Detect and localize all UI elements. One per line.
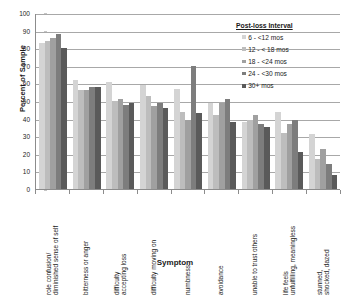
bar xyxy=(298,152,304,189)
x-cat-slot: avoidance xyxy=(204,195,238,295)
x-tick-mark xyxy=(340,190,341,194)
legend-swatch xyxy=(242,60,246,64)
bar xyxy=(264,127,270,189)
legend-label: 30+ mos xyxy=(248,82,273,89)
legend-swatch xyxy=(242,47,246,51)
legend-item: 12 - < 18 mos xyxy=(242,46,346,53)
legend-swatch xyxy=(242,84,246,88)
y-tick-label: 70 xyxy=(23,64,30,71)
x-tick-mark xyxy=(103,190,104,194)
x-axis-category-labels: role confusion/diminished sense of selfb… xyxy=(35,195,340,295)
x-cat-slot: bitterness or anger xyxy=(69,195,103,295)
legend-label: 18 - <24 mos xyxy=(248,58,287,65)
y-tick-label: 50 xyxy=(23,99,30,106)
x-cat-slot: life feelsunfulfilling, meaningless xyxy=(272,195,306,295)
bar xyxy=(196,113,202,189)
y-tick-label: 100 xyxy=(19,11,30,18)
legend: Post-loss Interval 6 - <12 mos12 - < 18 … xyxy=(228,22,346,94)
legend-item: 24 - <30 mos xyxy=(242,70,346,77)
y-tick-label: 40 xyxy=(23,116,30,123)
x-tick-mark xyxy=(204,190,205,194)
bar-chart: Percent of Sample 1009080706050403020100… xyxy=(0,0,350,302)
legend-item: 30+ mos xyxy=(242,82,346,89)
legend-label: 6 - <12 mos xyxy=(248,34,283,41)
x-cat-label: life feelsunfulfilling, meaningless xyxy=(282,195,297,295)
y-tick-label: 60 xyxy=(23,81,30,88)
y-axis-tick-labels: 1009080706050403020100 xyxy=(12,14,30,190)
x-cat-slot: stunned,shocked, dazed xyxy=(306,195,340,295)
x-tick-mark xyxy=(272,190,273,194)
x-cat-label: difficultyaccepting loss xyxy=(112,195,127,295)
legend-item: 6 - <12 mos xyxy=(242,34,346,41)
y-tick-label: 10 xyxy=(23,169,30,176)
bar xyxy=(61,48,67,189)
bar xyxy=(129,103,135,189)
x-cat-label: role confusion/diminished sense of self xyxy=(45,195,60,295)
x-tick-mark xyxy=(306,190,307,194)
legend-label: 24 - <30 mos xyxy=(248,70,287,77)
y-tick-label: 20 xyxy=(23,152,30,159)
x-axis-title: Symptom xyxy=(0,258,350,267)
x-cat-slot: difficultyaccepting loss xyxy=(103,195,137,295)
x-tick-mark xyxy=(35,190,36,194)
x-tick-mark xyxy=(137,190,138,194)
bar-group xyxy=(104,14,138,189)
x-tick-mark xyxy=(171,190,172,194)
x-tick-mark xyxy=(238,190,239,194)
y-tick-label: 90 xyxy=(23,28,30,35)
x-cat-label: avoidance xyxy=(218,195,225,295)
legend-title: Post-loss Interval xyxy=(236,22,346,29)
x-axis-tick-marks xyxy=(35,190,340,194)
x-cat-slot: difficulty moving on xyxy=(137,195,171,295)
bar-group xyxy=(171,14,205,189)
x-cat-label: stunned,shocked, dazed xyxy=(316,195,331,295)
x-cat-label: bitterness or anger xyxy=(82,195,89,295)
y-tick-label: 80 xyxy=(23,46,30,53)
legend-items: 6 - <12 mos12 - < 18 mos18 - <24 mos24 -… xyxy=(228,34,346,90)
bar-group xyxy=(70,14,104,189)
legend-label: 12 - < 18 mos xyxy=(248,46,289,53)
x-tick-mark xyxy=(69,190,70,194)
x-cat-slot: role confusion/diminished sense of self xyxy=(35,195,69,295)
bar xyxy=(163,108,169,189)
bar-group xyxy=(36,14,70,189)
bar-group xyxy=(137,14,171,189)
x-cat-slot: unable to trust others xyxy=(238,195,272,295)
bar xyxy=(95,87,101,189)
bar xyxy=(332,175,338,189)
x-cat-label: numbness xyxy=(184,195,191,295)
y-tick-label: 30 xyxy=(23,134,30,141)
legend-swatch xyxy=(242,35,246,39)
legend-swatch xyxy=(242,72,246,76)
legend-item: 18 - <24 mos xyxy=(242,58,346,65)
y-tick-label: 0 xyxy=(26,187,30,194)
x-cat-label: unable to trust others xyxy=(252,195,259,295)
x-cat-label: difficulty moving on xyxy=(150,195,157,295)
x-cat-slot: numbness xyxy=(171,195,205,295)
bar xyxy=(230,122,236,189)
